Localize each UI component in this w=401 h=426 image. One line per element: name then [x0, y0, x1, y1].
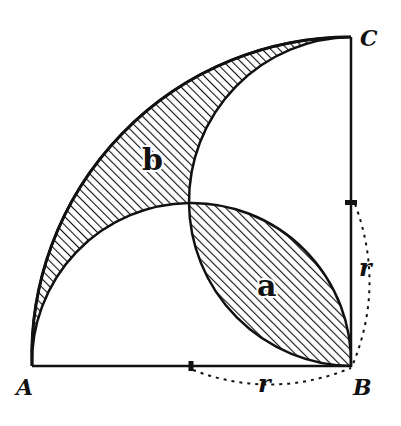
point-label-C: C — [360, 25, 378, 51]
region-label-b: b — [142, 142, 163, 177]
region-label-a: a — [257, 268, 276, 303]
diagram-canvas: A B C b a r r — [0, 0, 401, 426]
point-label-B: B — [352, 374, 372, 400]
horizontal-radius-label: r — [258, 369, 273, 398]
midpoint-AB-tick — [189, 361, 194, 371]
point-label-A: A — [14, 374, 33, 400]
vertical-radius-dashed-arc — [353, 204, 370, 364]
quarter-circle-lune-diagram: A B C b a r r — [0, 0, 401, 426]
horizontal-radius-dashed-arc — [193, 368, 351, 385]
vertical-radius-label: r — [359, 253, 374, 282]
